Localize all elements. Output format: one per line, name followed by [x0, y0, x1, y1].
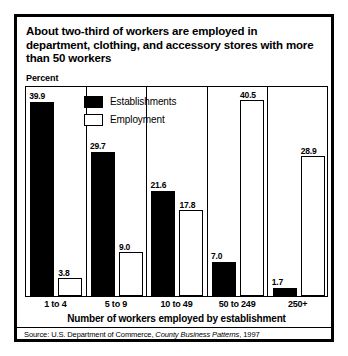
- bar-value-label: 3.8: [58, 268, 69, 278]
- bar-value-label: 39.9: [29, 91, 45, 101]
- x-axis-tick-4: 50 to 249: [207, 299, 268, 309]
- bar-group: 39.93.8: [26, 87, 87, 296]
- source-publication: County Business Patterns: [155, 330, 239, 339]
- bar-value-label: 7.0: [211, 251, 222, 261]
- legend-swatch-employment-icon: [84, 114, 103, 126]
- bar-value-label: 17.8: [179, 200, 195, 210]
- bar-value-label: 28.9: [301, 146, 317, 156]
- source-note: Source: U.S. Department of Commerce, Cou…: [24, 330, 260, 339]
- bar-establishments: 1.7: [273, 288, 297, 296]
- bar-value-label: 21.6: [150, 180, 166, 190]
- bar-employment: 9.0: [119, 252, 143, 296]
- legend-item-establishments: Establishments: [84, 95, 176, 108]
- bar-value-label: 1.7: [272, 277, 283, 287]
- bar-establishments: 29.7: [91, 152, 115, 296]
- x-axis-tick-1: 1 to 4: [25, 299, 86, 309]
- bar-group: 1.728.9: [268, 87, 329, 296]
- bar-establishments: 39.9: [30, 102, 54, 296]
- legend-swatch-establishments-icon: [84, 96, 103, 108]
- y-axis-label: Percent: [26, 73, 58, 83]
- chart-figure: About two-third of workers are employed …: [14, 14, 334, 342]
- plot-frame: 39.93.829.79.021.617.87.040.51.728.9 Est…: [25, 86, 328, 297]
- bar-value-label: 40.5: [240, 90, 256, 100]
- legend-label-employment: Employment: [110, 114, 165, 125]
- bar-employment: 40.5: [240, 100, 264, 296]
- bar-employment: 3.8: [58, 278, 82, 296]
- plot-area: 39.93.829.79.021.617.87.040.51.728.9: [26, 87, 327, 296]
- source-prefix: Source: U.S. Department of Commerce,: [24, 330, 155, 339]
- x-axis-tick-2: 5 to 9: [86, 299, 147, 309]
- bar-establishments: 21.6: [151, 191, 175, 296]
- title-block: About two-third of workers are employed …: [17, 17, 331, 66]
- bar-group: 7.040.5: [208, 87, 269, 296]
- bar-employment: 28.9: [301, 156, 325, 296]
- legend-item-employment: Employment: [84, 113, 176, 126]
- legend-label-establishments: Establishments: [110, 96, 176, 107]
- bar-establishments: 7.0: [212, 262, 236, 296]
- bar-value-label: 29.7: [90, 141, 106, 151]
- source-divider: [17, 327, 331, 328]
- source-suffix: , 1997: [239, 330, 259, 339]
- x-axis-tick-3: 10 to 49: [146, 299, 207, 309]
- bar-employment: 17.8: [179, 210, 203, 296]
- chart-title: About two-third of workers are employed …: [26, 25, 322, 66]
- x-axis-tick-row: 1 to 45 to 910 to 4950 to 249250+: [25, 299, 328, 312]
- chart-legend: Establishments Employment: [84, 95, 176, 131]
- x-axis-title: Number of workers employed by establishm…: [25, 313, 328, 324]
- x-axis-tick-5: 250+: [267, 299, 328, 309]
- bar-value-label: 9.0: [119, 242, 130, 252]
